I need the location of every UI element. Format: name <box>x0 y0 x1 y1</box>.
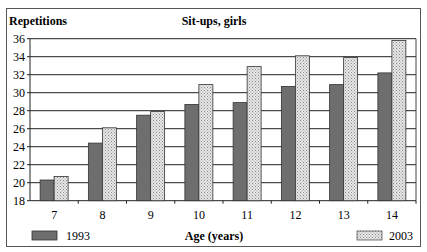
x-tick-label: 10 <box>193 208 205 222</box>
bar-2003-age-11 <box>247 67 261 201</box>
y-tick-label: 34 <box>13 50 25 64</box>
bar-1993-age-12 <box>281 86 295 200</box>
x-tick-label: 8 <box>99 208 105 222</box>
x-axis-label: Age (years) <box>185 229 243 243</box>
x-tick-label: 7 <box>51 208 57 222</box>
x-tick-label: 9 <box>148 208 154 222</box>
legend-swatch-1993 <box>32 231 57 240</box>
bar-2003-age-8 <box>102 128 116 201</box>
bar-1993-age-13 <box>330 85 344 201</box>
legend-label-2003: 2003 <box>389 229 413 243</box>
bar-1993-age-10 <box>185 104 199 200</box>
bar-2003-age-7 <box>54 176 68 200</box>
x-axis-ticks: 7891011121314 <box>51 201 416 222</box>
bar-1993-age-8 <box>88 143 102 201</box>
gridlines <box>30 39 416 201</box>
y-tick-label: 20 <box>13 176 25 190</box>
y-axis-ticks: 18202224262830323436 <box>13 32 30 208</box>
x-tick-label: 11 <box>241 208 253 222</box>
bar-1993-age-14 <box>378 73 392 201</box>
bar-1993-age-11 <box>233 103 247 201</box>
legend-label-1993: 1993 <box>66 229 90 243</box>
bar-2003-age-10 <box>199 85 213 201</box>
bar-2003-age-12 <box>295 56 309 201</box>
bar-2003-age-13 <box>344 58 358 201</box>
y-tick-label: 36 <box>13 32 25 46</box>
x-tick-label: 13 <box>338 208 350 222</box>
x-tick-label: 14 <box>386 208 398 222</box>
y-tick-label: 30 <box>13 86 25 100</box>
bar-chart: Repetitions Sit-ups, girls 1820222426283… <box>0 0 427 252</box>
x-tick-label: 12 <box>289 208 301 222</box>
bar-2003-age-14 <box>392 41 406 201</box>
y-tick-label: 22 <box>13 158 25 172</box>
legend-swatch-2003 <box>357 231 382 240</box>
bars <box>40 41 406 201</box>
y-tick-label: 26 <box>13 122 25 136</box>
y-tick-label: 32 <box>13 68 25 82</box>
y-tick-label: 18 <box>13 194 25 208</box>
y-tick-label: 24 <box>13 140 25 154</box>
y-tick-label: 28 <box>13 104 25 118</box>
bar-2003-age-9 <box>151 112 165 201</box>
y-axis-label: Repetitions <box>9 14 67 28</box>
bar-1993-age-7 <box>40 180 54 201</box>
bar-1993-age-9 <box>137 115 151 201</box>
chart-title: Sit-ups, girls <box>182 14 247 28</box>
